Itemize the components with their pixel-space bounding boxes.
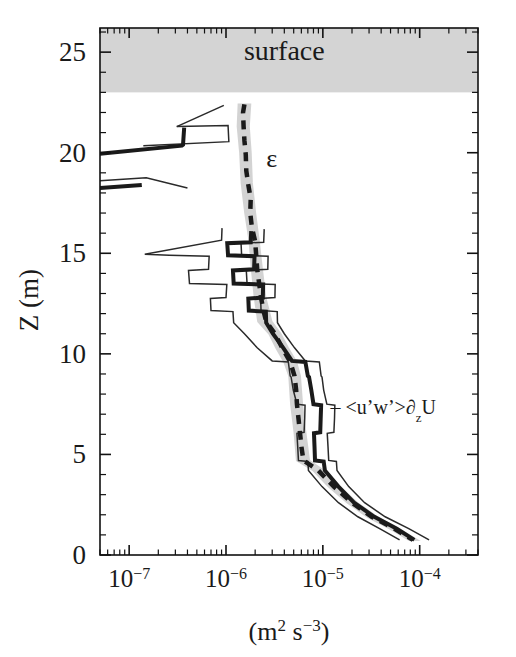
y-tick-label: 5 <box>73 439 87 469</box>
y-tick-label: 10 <box>59 339 86 369</box>
shear-label-main: – <u’w’>∂ <box>330 396 416 418</box>
y-axis-title: Z (m) <box>14 269 44 331</box>
shear-label-tail: U <box>422 396 437 418</box>
x-axis-title-close: ) <box>321 617 330 646</box>
x-axis-title-open: (m <box>249 617 278 646</box>
y-tick-label: 20 <box>59 138 86 168</box>
y-tick-label: 15 <box>59 238 86 268</box>
y-tick-label: 25 <box>59 37 86 67</box>
x-axis-title-sup1: 2 <box>278 616 287 635</box>
x-axis-title-mid: s <box>286 617 303 646</box>
epsilon-label: ε <box>266 144 277 173</box>
surface-band-label: surface <box>244 35 325 66</box>
y-tick-label: 0 <box>73 540 87 570</box>
figure-container: 0510152025 10−710−610−510−4 Z (m) (m2 s−… <box>0 0 516 657</box>
turbulence-dissipation-profile-chart: 0510152025 10−710−610−510−4 Z (m) (m2 s−… <box>0 0 516 657</box>
x-axis-title-sup2: −3 <box>303 616 321 635</box>
